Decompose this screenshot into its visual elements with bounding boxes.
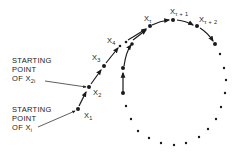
label-x3: X3: [92, 53, 101, 65]
label-x1: X1: [84, 111, 93, 123]
point-xt1: [171, 18, 175, 22]
label-xt2: Xτ + 2: [199, 15, 217, 27]
label-xt: Xτ: [144, 14, 152, 26]
label-x2: X2: [93, 88, 102, 100]
point-x2: [87, 85, 91, 89]
cycle-dots: [125, 53, 227, 146]
point-x1: [76, 107, 80, 111]
point-x3: [102, 64, 106, 68]
point-x4: [119, 45, 122, 48]
annotation-start-xi: STARTING POINT OF Xi: [12, 105, 52, 135]
annotation-start-x2i: STARTING POINT OF X2i: [12, 56, 52, 86]
label-xt1: Xτ + 1: [170, 7, 188, 19]
label-x4: X4: [107, 36, 116, 48]
